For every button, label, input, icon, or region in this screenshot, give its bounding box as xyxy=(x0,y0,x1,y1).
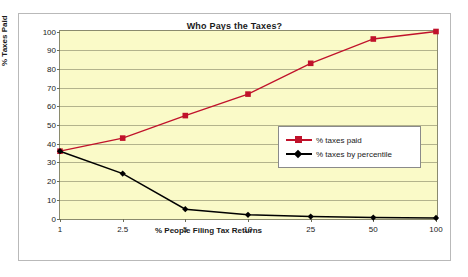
y-tick-label: 0 xyxy=(52,214,56,223)
legend-label-taxes-by-percentile: % taxes by percentile xyxy=(316,150,392,159)
y-tick-label: 90 xyxy=(47,46,56,55)
legend-marker-square-icon xyxy=(295,136,302,143)
chart-legend: % taxes paid % taxes by percentile xyxy=(278,126,421,168)
data-point-square-icon xyxy=(183,113,189,119)
data-point-diamond-icon xyxy=(182,206,188,212)
y-axis-title: % Taxes Paid xyxy=(0,15,9,66)
y-tick-label: 10 xyxy=(47,195,56,204)
y-tick-label: 50 xyxy=(47,121,56,130)
y-tick-label: 100 xyxy=(43,27,56,36)
y-tick-label: 20 xyxy=(47,177,56,186)
chart-frame: Who Pays the Taxes? % Taxes Paid 0102030… xyxy=(18,13,451,261)
series-lines xyxy=(60,31,437,219)
data-point-diamond-icon xyxy=(433,215,439,221)
y-tick-label: 30 xyxy=(47,158,56,167)
y-tick-label: 40 xyxy=(47,139,56,148)
data-point-square-icon xyxy=(120,135,126,141)
x-axis-title: % People Filing Tax Returns xyxy=(19,226,398,235)
x-tick-mark xyxy=(248,219,249,222)
legend-swatch-diamond-icon xyxy=(286,149,312,159)
x-tick-mark xyxy=(60,219,61,222)
x-tick-mark xyxy=(123,219,124,222)
data-point-square-icon xyxy=(371,36,377,42)
data-point-diamond-icon xyxy=(308,214,314,220)
legend-item-taxes-paid: % taxes paid xyxy=(286,133,413,147)
y-tick-label: 60 xyxy=(47,102,56,111)
legend-label-taxes-paid: % taxes paid xyxy=(316,136,362,145)
x-tick-mark xyxy=(185,219,186,222)
data-point-diamond-icon xyxy=(245,212,251,218)
x-tick-label: 100 xyxy=(429,225,442,234)
y-tick-label: 70 xyxy=(47,83,56,92)
data-point-square-icon xyxy=(245,91,251,97)
legend-marker-diamond-icon xyxy=(294,150,302,158)
data-point-square-icon xyxy=(308,61,314,67)
y-tick-label: 80 xyxy=(47,64,56,73)
legend-swatch-square-icon xyxy=(286,135,312,145)
data-point-diamond-icon xyxy=(370,215,376,221)
data-point-square-icon xyxy=(433,29,439,35)
plot-area: 0102030405060708090100 12.55102550100 xyxy=(59,30,438,220)
data-point-diamond-icon xyxy=(120,171,126,177)
legend-item-taxes-by-percentile: % taxes by percentile xyxy=(286,147,413,161)
